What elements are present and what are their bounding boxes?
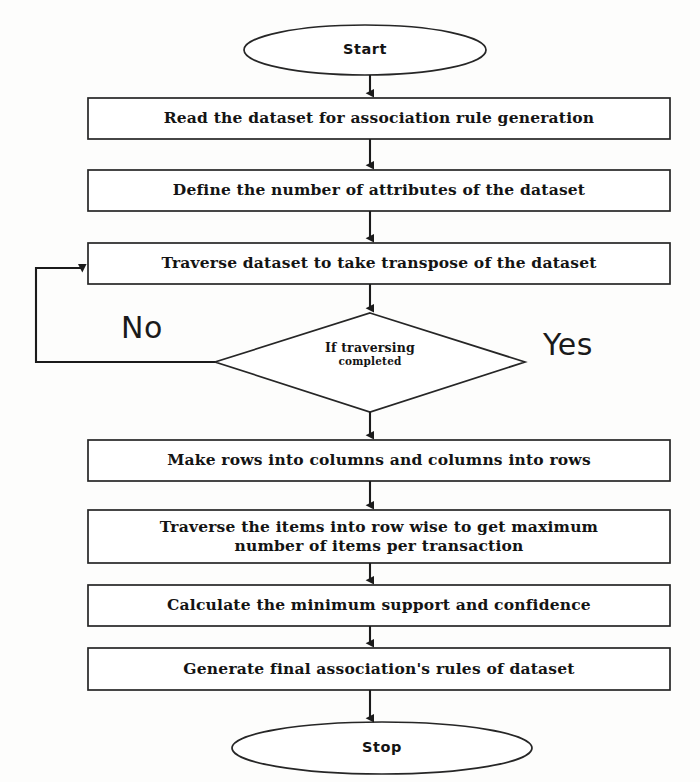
node-calculate[interactable] (88, 585, 670, 626)
node-traverse[interactable] (88, 243, 670, 284)
flowchart-canvas: Start Read the dataset for association r… (0, 0, 700, 782)
branch-label-no: No (121, 310, 163, 345)
node-makerows[interactable] (88, 440, 670, 481)
node-stop[interactable] (232, 722, 532, 774)
node-define[interactable] (88, 170, 670, 211)
node-generate[interactable] (88, 648, 670, 690)
branch-label-yes: Yes (543, 327, 593, 362)
node-traverserow[interactable] (88, 510, 670, 563)
node-decision[interactable] (215, 313, 525, 412)
node-read[interactable] (88, 98, 670, 139)
node-start[interactable] (244, 25, 486, 75)
